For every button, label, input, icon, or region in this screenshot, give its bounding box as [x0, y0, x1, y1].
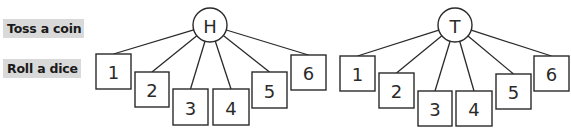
- root-label: T: [449, 16, 462, 37]
- outcome-label: 1: [108, 62, 119, 83]
- edge-h-4: [215, 41, 231, 89]
- edge-h-2: [152, 36, 197, 72]
- tree-h: H123456: [96, 8, 326, 125]
- edge-h-6: [226, 30, 308, 55]
- root-label: H: [203, 16, 217, 37]
- edge-h-3: [191, 41, 206, 89]
- outcome-label: 5: [264, 81, 275, 102]
- edge-t-3: [435, 41, 450, 91]
- outcome-label: 6: [546, 64, 557, 85]
- outcome-label: 1: [352, 64, 363, 85]
- outcome-label: 3: [429, 99, 440, 120]
- tree-t: T123456: [340, 8, 569, 126]
- outcome-label: 4: [468, 99, 479, 120]
- outcome-label: 2: [391, 81, 402, 102]
- edge-t-6: [471, 30, 551, 56]
- outcome-label: 2: [146, 80, 157, 101]
- outcome-label: 6: [303, 63, 314, 84]
- edge-t-4: [460, 41, 474, 91]
- edge-h-1: [114, 30, 194, 54]
- outcome-label: 5: [508, 82, 519, 103]
- outcome-label: 4: [225, 98, 236, 119]
- edge-t-1: [358, 30, 439, 56]
- tree-diagram: H123456T123456: [0, 0, 571, 133]
- outcome-label: 3: [185, 98, 196, 119]
